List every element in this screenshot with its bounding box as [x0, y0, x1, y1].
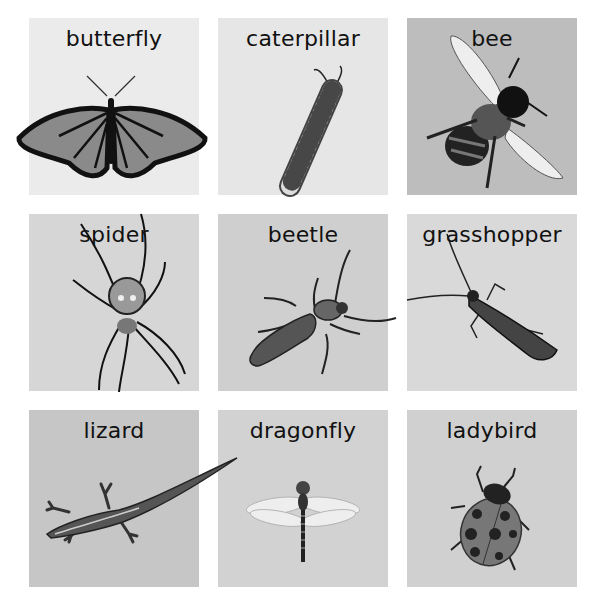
- card-grasshopper[interactable]: grasshopper: [407, 214, 577, 391]
- card-label: ladybird: [407, 418, 577, 443]
- card-label: caterpillar: [218, 26, 388, 51]
- card-label: spider: [29, 222, 199, 247]
- card-dragonfly[interactable]: dragonfly: [218, 410, 388, 587]
- card-beetle[interactable]: beetle: [218, 214, 388, 391]
- card-butterfly[interactable]: butterfly: [29, 18, 199, 195]
- card-label: bee: [407, 26, 577, 51]
- card-bee[interactable]: bee: [407, 18, 577, 195]
- card-label: dragonfly: [218, 418, 388, 443]
- card-label: beetle: [218, 222, 388, 247]
- card-ladybird[interactable]: ladybird: [407, 410, 577, 587]
- card-grid: butterfly caterpillar bee: [29, 18, 584, 591]
- card-lizard[interactable]: lizard: [29, 410, 199, 587]
- card-label: grasshopper: [407, 222, 577, 247]
- card-spider[interactable]: spider: [29, 214, 199, 391]
- card-caterpillar[interactable]: caterpillar: [218, 18, 388, 195]
- card-label: lizard: [29, 418, 199, 443]
- card-label: butterfly: [29, 26, 199, 51]
